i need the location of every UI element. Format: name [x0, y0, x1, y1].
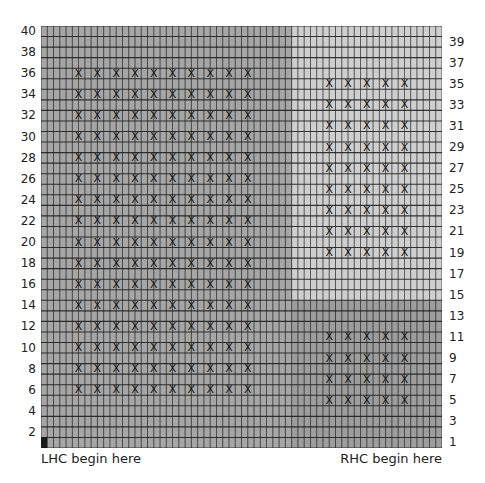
cable-cross-icon: X	[187, 152, 195, 163]
cable-cross-icon: X	[400, 163, 408, 174]
row-label-left: 22	[18, 215, 36, 227]
cable-cross-icon: X	[131, 194, 139, 205]
row-label-right: 7	[449, 373, 457, 385]
cable-cross-icon: X	[244, 173, 252, 184]
row-label-left: 18	[18, 257, 36, 269]
row-label-left: 12	[18, 320, 36, 332]
cable-cross-icon: X	[325, 226, 333, 237]
cable-cross-icon: X	[400, 205, 408, 216]
cable-cross-icon: X	[325, 331, 333, 342]
cable-cross-icon: X	[225, 321, 233, 332]
row-label-right: 37	[449, 57, 464, 69]
cable-cross-icon: X	[169, 131, 177, 142]
cable-cross-icon: X	[400, 395, 408, 406]
cable-cross-icon: X	[93, 300, 101, 311]
cable-cross-icon: X	[93, 89, 101, 100]
cable-cross-icon: X	[187, 131, 195, 142]
cable-cross-icon: X	[150, 89, 158, 100]
cable-cross-icon: X	[382, 395, 390, 406]
cable-cross-icon: X	[206, 68, 214, 79]
cable-cross-icon: X	[382, 78, 390, 89]
cable-cross-icon: X	[93, 68, 101, 79]
row-label-right: 23	[449, 204, 464, 216]
cable-cross-icon: X	[325, 353, 333, 364]
cable-cross-icon: X	[244, 363, 252, 374]
cable-cross-icon: X	[169, 237, 177, 248]
cable-cross-icon: X	[131, 173, 139, 184]
cable-cross-icon: X	[169, 300, 177, 311]
cable-cross-icon: X	[112, 342, 120, 353]
cable-cross-icon: X	[206, 237, 214, 248]
row-label-right: 1	[449, 436, 457, 448]
cable-cross-icon: X	[400, 353, 408, 364]
cable-cross-icon: X	[225, 279, 233, 290]
cable-cross-icon: X	[93, 384, 101, 395]
cable-cross-icon: X	[131, 110, 139, 121]
row-label-left: 26	[18, 173, 36, 185]
cable-cross-icon: X	[93, 110, 101, 121]
cable-cross-icon: X	[131, 279, 139, 290]
cable-cross-icon: X	[150, 131, 158, 142]
row-label-right: 35	[449, 78, 464, 90]
cable-cross-icon: X	[93, 321, 101, 332]
cable-cross-icon: X	[206, 110, 214, 121]
cable-cross-icon: X	[93, 363, 101, 374]
row-label-right: 11	[449, 331, 464, 343]
cable-cross-icon: X	[131, 68, 139, 79]
row-label-left: 6	[18, 384, 36, 396]
row-label-right: 13	[449, 310, 464, 322]
cable-cross-icon: X	[225, 363, 233, 374]
cable-cross-icon: X	[187, 342, 195, 353]
cable-cross-icon: X	[382, 142, 390, 153]
row-label-left: 4	[18, 405, 36, 417]
cable-cross-icon: X	[169, 152, 177, 163]
cable-cross-icon: X	[325, 163, 333, 174]
cable-cross-icon: X	[225, 258, 233, 269]
cable-cross-icon: X	[382, 184, 390, 195]
cable-cross-icon: X	[169, 215, 177, 226]
cable-cross-icon: X	[382, 374, 390, 385]
cable-cross-icon: X	[400, 184, 408, 195]
cable-cross-icon: X	[93, 131, 101, 142]
cable-cross-icon: X	[169, 384, 177, 395]
cable-cross-icon: X	[325, 142, 333, 153]
cable-cross-icon: X	[169, 89, 177, 100]
cable-cross-icon: X	[75, 300, 83, 311]
knitting-chart-grid: XXXXXXXXXXXXXXXXXXXXXXXXXXXXXXXXXXXXXXXX…	[41, 26, 442, 448]
cable-cross-icon: X	[225, 194, 233, 205]
cable-cross-icon: X	[187, 237, 195, 248]
cable-cross-icon: X	[150, 300, 158, 311]
cable-cross-icon: X	[169, 342, 177, 353]
row-label-left: 10	[18, 342, 36, 354]
cable-cross-icon: X	[382, 226, 390, 237]
cable-cross-icon: X	[363, 163, 371, 174]
cable-cross-icon: X	[344, 142, 352, 153]
cable-cross-icon: X	[112, 237, 120, 248]
cable-cross-icon: X	[344, 78, 352, 89]
row-label-right: 29	[449, 141, 464, 153]
cable-cross-icon: X	[244, 89, 252, 100]
cable-cross-icon: X	[150, 321, 158, 332]
cable-cross-icon: X	[187, 68, 195, 79]
cable-cross-icon: X	[112, 258, 120, 269]
cable-cross-icon: X	[400, 331, 408, 342]
cable-cross-icon: X	[112, 152, 120, 163]
cable-cross-icon: X	[363, 205, 371, 216]
cable-cross-icon: X	[400, 99, 408, 110]
lhc-caption: LHC begin here	[41, 451, 141, 466]
cable-cross-icon: X	[363, 353, 371, 364]
cable-cross-icon: X	[244, 131, 252, 142]
cable-cross-icon: X	[244, 258, 252, 269]
cable-cross-icon: X	[206, 194, 214, 205]
cable-cross-icon: X	[325, 184, 333, 195]
cable-cross-icon: X	[93, 342, 101, 353]
cable-cross-icon: X	[169, 110, 177, 121]
cable-cross-icon: X	[112, 68, 120, 79]
cable-cross-icon: X	[363, 374, 371, 385]
cable-cross-icon: X	[187, 215, 195, 226]
cable-cross-icon: X	[400, 78, 408, 89]
cable-cross-icon: X	[325, 247, 333, 258]
cable-cross-icon: X	[150, 279, 158, 290]
row-label-left: 40	[18, 25, 36, 37]
cable-cross-icon: X	[344, 247, 352, 258]
